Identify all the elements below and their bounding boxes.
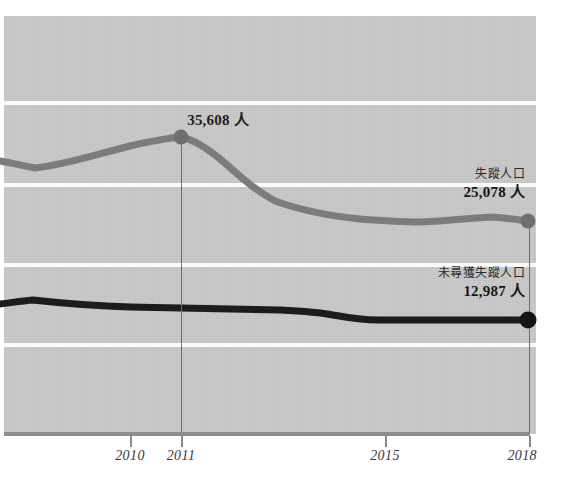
x-tick-2015 bbox=[385, 436, 387, 447]
callout-missing-population-name: 失蹤人口 bbox=[463, 166, 525, 182]
series-line-unrecovered-missing bbox=[0, 300, 528, 320]
missing-persons-line-chart: 35,608 人 失蹤人口 25,078 人 未尋獲失蹤人口 12,987 人 … bbox=[0, 0, 561, 482]
x-tick-label-2011: 2011 bbox=[167, 448, 196, 464]
x-tick-2018 bbox=[529, 436, 531, 447]
callout-unrecovered-missing-name: 未尋獲失蹤人口 bbox=[438, 265, 526, 281]
endpoint-dot-missing-population bbox=[521, 214, 536, 229]
peak-value-label: 35,608 人 bbox=[187, 108, 249, 129]
indicator-line-2011 bbox=[181, 137, 182, 434]
callout-unrecovered-missing-value: 12,987 人 bbox=[438, 281, 526, 301]
peak-marker-dot bbox=[174, 130, 189, 145]
callout-missing-population: 失蹤人口 25,078 人 bbox=[463, 166, 525, 202]
x-tick-label-2018: 2018 bbox=[507, 448, 537, 464]
callout-unrecovered-missing: 未尋獲失蹤人口 12,987 人 bbox=[438, 265, 526, 301]
x-tick-2010 bbox=[130, 436, 132, 447]
series-line-missing-population bbox=[0, 137, 528, 222]
series-layer bbox=[0, 0, 561, 482]
x-axis-line bbox=[4, 432, 530, 436]
endpoint-dot-unrecovered-missing bbox=[520, 312, 537, 329]
x-tick-2011 bbox=[181, 436, 183, 447]
callout-missing-population-value: 25,078 人 bbox=[463, 182, 525, 202]
x-tick-label-2015: 2015 bbox=[370, 448, 400, 464]
x-tick-label-2010: 2010 bbox=[115, 448, 145, 464]
